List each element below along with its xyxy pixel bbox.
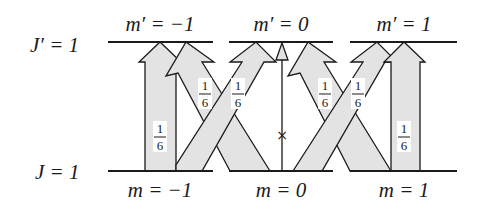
lower-sublevel-label-m1: m = 1 — [379, 178, 429, 202]
lower-sublevel-label-m0: m = 0 — [256, 178, 307, 202]
strength-label-m0-to-mp1: 1 6 — [351, 78, 365, 110]
upper-sublevel-label-m0: m′ = 0 — [254, 12, 309, 36]
svg-text:1: 1 — [235, 78, 242, 93]
svg-text:6: 6 — [401, 138, 408, 153]
svg-text:6: 6 — [235, 95, 242, 110]
svg-text:6: 6 — [202, 95, 209, 110]
upper-sublevel-label-mneg1: m′ = −1 — [125, 12, 194, 36]
svg-text:6: 6 — [322, 95, 329, 110]
upper-sublevel-label-m1: m′ = 1 — [377, 12, 432, 36]
svg-text:1: 1 — [322, 78, 329, 93]
strength-label-m1-to-mp0: 1 6 — [318, 78, 332, 110]
svg-text:1: 1 — [355, 78, 362, 93]
upper-level-label: J′ = 1 — [30, 33, 79, 57]
strength-label-m1-to-mp1: 1 6 — [397, 121, 411, 153]
svg-text:6: 6 — [157, 138, 164, 153]
svg-text:1: 1 — [401, 121, 408, 136]
svg-text:1: 1 — [202, 78, 209, 93]
forbidden-mark: × — [276, 127, 288, 143]
strength-label-mneg1-to-mpneg1: 1 6 — [153, 121, 167, 153]
strength-label-m0-to-mpneg1: 1 6 — [198, 78, 212, 110]
forbidden-transition-arrowhead — [276, 43, 288, 60]
svg-text:1: 1 — [157, 121, 164, 136]
transition-diagram: J′ = 1 J = 1 × m′ = −1 m′ = 0 m′ = 1 m =… — [0, 0, 480, 215]
lower-sublevel-label-mneg1: m = −1 — [128, 178, 193, 202]
svg-text:6: 6 — [355, 95, 362, 110]
strength-label-mneg1-to-mp0: 1 6 — [231, 78, 245, 110]
lower-level-label: J = 1 — [35, 160, 80, 184]
